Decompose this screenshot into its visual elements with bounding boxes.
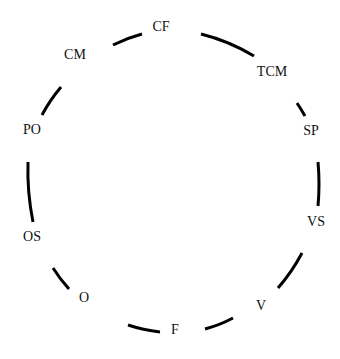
arc-tcm-sp — [297, 103, 305, 116]
node-label-tcm: TCM — [257, 65, 287, 79]
node-label-sp: SP — [303, 124, 319, 138]
arc-os-po — [28, 162, 33, 222]
arc-cm-cf — [113, 34, 142, 45]
arc-po-cm — [42, 87, 61, 115]
arc-f-o — [128, 325, 160, 332]
node-label-cf: CF — [152, 20, 169, 34]
arc-v-f — [205, 318, 233, 329]
node-label-f: F — [171, 323, 179, 337]
node-label-vs: VS — [307, 215, 325, 229]
node-label-cm: CM — [64, 48, 86, 62]
cycle-arcs — [0, 0, 340, 359]
node-label-os: OS — [23, 230, 41, 244]
node-label-v: V — [256, 299, 266, 313]
node-label-po: PO — [23, 123, 41, 137]
arc-o-os — [53, 268, 69, 289]
node-label-o: O — [79, 291, 89, 305]
arc-cf-tcm — [201, 34, 254, 56]
arc-sp-vs — [318, 162, 319, 206]
arc-vs-v — [278, 253, 302, 288]
cycle-diagram: CF TCM SP VS V F O OS PO CM — [0, 0, 340, 359]
